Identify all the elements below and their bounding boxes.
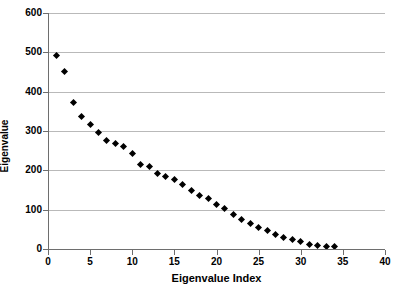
data-point (213, 201, 220, 208)
data-point (70, 99, 77, 106)
data-point (120, 143, 127, 150)
x-axis-tick-label: 20 (202, 257, 232, 267)
data-point (129, 150, 136, 157)
y-axis-tick (43, 210, 48, 211)
data-point (162, 173, 169, 180)
data-point (205, 195, 212, 202)
x-axis-tick-label: 40 (370, 257, 399, 267)
x-axis-tick-label: 5 (75, 257, 105, 267)
y-axis-tick-label: 400 (0, 87, 42, 97)
data-point (238, 216, 245, 223)
y-axis-tick-label: 300 (0, 126, 42, 136)
y-axis-title: Eigenvalue (0, 96, 11, 196)
data-point (87, 121, 94, 128)
y-axis-tick (43, 13, 48, 14)
data-point (78, 113, 85, 120)
x-axis-tick-label: 10 (117, 257, 147, 267)
x-axis-title: Eigenvalue Index (48, 272, 385, 284)
data-point (314, 242, 321, 249)
data-point (146, 163, 153, 170)
x-axis-tick (259, 250, 260, 255)
data-point (306, 241, 313, 248)
data-point (179, 181, 186, 188)
scree-plot-chart: Eigenvalue Eigenvalue Index 010020030040… (0, 0, 399, 299)
gridline-y (48, 210, 385, 211)
data-point (103, 137, 110, 144)
y-axis-tick-label-text: 600 (2, 8, 42, 18)
gridline-y (48, 13, 385, 14)
y-axis-tick (43, 52, 48, 53)
data-point (171, 176, 178, 183)
x-axis-tick (343, 250, 344, 255)
data-point (264, 227, 271, 234)
data-point (297, 238, 304, 245)
y-axis-line (48, 13, 49, 250)
data-point (221, 205, 228, 212)
y-axis-tick-label-text: 100 (2, 205, 42, 215)
y-axis-tick-label-text: 400 (2, 87, 42, 97)
data-point (196, 192, 203, 199)
data-point (272, 231, 279, 238)
gridline-y (48, 92, 385, 93)
data-point (289, 236, 296, 243)
x-axis-tick (301, 250, 302, 255)
data-point (112, 140, 119, 147)
y-axis-tick-label-text: 300 (2, 126, 42, 136)
y-axis-tick-label: 100 (0, 205, 42, 215)
x-axis-tick (48, 250, 49, 255)
x-axis-tick (174, 250, 175, 255)
x-axis-tick (385, 250, 386, 255)
y-axis-tick (43, 170, 48, 171)
y-axis-tick-label: 500 (0, 47, 42, 57)
x-axis-tick (217, 250, 218, 255)
y-axis-tick-label: 0 (0, 244, 42, 254)
data-point (230, 211, 237, 218)
data-point (61, 68, 68, 75)
gridline-y (48, 170, 385, 171)
y-axis-tick-label: 200 (0, 165, 42, 175)
y-axis-tick (43, 131, 48, 132)
data-point (255, 224, 262, 231)
x-axis-tick (90, 250, 91, 255)
y-axis-tick-label-text: 200 (2, 165, 42, 175)
data-point (188, 187, 195, 194)
x-axis-tick-label: 25 (244, 257, 274, 267)
x-axis-tick-label: 15 (159, 257, 189, 267)
x-axis-tick (132, 250, 133, 255)
y-axis-tick-label-text: 500 (2, 47, 42, 57)
data-point (280, 234, 287, 241)
x-axis-tick-label: 35 (328, 257, 358, 267)
data-point (137, 160, 144, 167)
y-axis-tick-label-text: 0 (2, 244, 42, 254)
data-point (95, 129, 102, 136)
data-point (247, 220, 254, 227)
x-axis-tick-label: 0 (33, 257, 63, 267)
y-axis-tick (43, 92, 48, 93)
plot-area (48, 13, 385, 249)
x-axis-tick-label: 30 (286, 257, 316, 267)
gridline-y (48, 52, 385, 53)
y-axis-tick-label: 600 (0, 8, 42, 18)
